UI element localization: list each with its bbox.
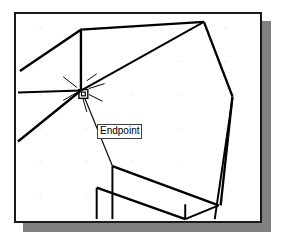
lower-right-wedge xyxy=(185,205,218,219)
endpoint-marker-inner-square xyxy=(82,92,86,96)
osnap-tooltip: Endpoint xyxy=(97,124,142,139)
top-left-roof-edge xyxy=(20,22,204,71)
cad-application-window: Endpoint xyxy=(0,0,281,239)
wireframe-drawing-canvas[interactable] xyxy=(16,14,260,221)
right-inner-descender xyxy=(215,98,233,219)
lower-face-lower-diagonal xyxy=(97,188,186,219)
grid-dots xyxy=(40,28,226,196)
ridge-to-apex xyxy=(81,22,204,91)
snap-aperture-rays xyxy=(63,74,104,112)
left-lower-diagonal xyxy=(18,91,81,142)
aperture-ray-0 xyxy=(63,77,77,88)
osnap-tooltip-label: Endpoint xyxy=(100,125,139,136)
apex-right-descender xyxy=(204,22,233,97)
aperture-ray-5 xyxy=(89,94,103,101)
wireframe-geometry xyxy=(18,22,232,219)
cad-drawing-viewport[interactable]: Endpoint xyxy=(14,12,262,223)
aperture-ray-3 xyxy=(87,74,97,81)
